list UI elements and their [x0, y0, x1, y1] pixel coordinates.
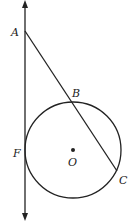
label-b: B: [71, 87, 80, 100]
label-c: C: [119, 174, 128, 187]
arrow-down-icon: [22, 213, 28, 221]
label-o: O: [68, 156, 77, 169]
label-f: F: [12, 147, 21, 160]
geometry-diagram: A B F O C: [0, 0, 138, 221]
center-point-o: [71, 148, 75, 152]
label-a: A: [10, 26, 19, 39]
arrow-up-icon: [22, 0, 28, 8]
